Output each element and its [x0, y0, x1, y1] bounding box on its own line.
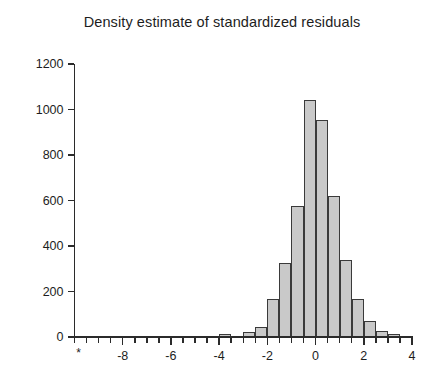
x-axis-minor-tick — [399, 338, 401, 343]
x-axis-minor-tick — [375, 338, 377, 343]
y-axis-tick — [68, 63, 74, 65]
y-axis-tick — [68, 154, 74, 156]
histogram-bar — [316, 120, 328, 337]
x-axis-minor-tick — [230, 338, 232, 343]
histogram-bar — [352, 299, 364, 337]
y-axis-tick-label: 0 — [57, 330, 64, 344]
y-axis-tick-label: 400 — [43, 239, 64, 253]
histogram-bar — [340, 260, 352, 337]
x-axis-major-tick — [267, 338, 269, 345]
y-axis-tick-label: 800 — [43, 148, 64, 162]
x-axis-minor-tick — [243, 338, 245, 343]
histogram-bar — [304, 100, 316, 337]
x-axis-minor-tick — [74, 338, 76, 343]
y-axis-tick-label: 1200 — [36, 57, 64, 71]
x-axis-tick-label: 2 — [360, 349, 367, 363]
x-axis-origin-marker: * — [76, 346, 81, 360]
x-axis-minor-tick — [387, 338, 389, 343]
x-axis-major-tick — [122, 338, 124, 345]
x-axis-major-tick — [411, 338, 413, 345]
x-axis-minor-tick — [351, 338, 353, 343]
x-axis-minor-tick — [339, 338, 341, 343]
x-axis-minor-tick — [110, 338, 112, 343]
x-axis-minor-tick — [146, 338, 148, 343]
x-axis-minor-tick — [255, 338, 257, 343]
x-axis-minor-tick — [194, 338, 196, 343]
y-axis-tick-label: 600 — [43, 194, 64, 208]
x-axis-minor-tick — [303, 338, 305, 343]
y-axis-tick-label: 200 — [43, 285, 64, 299]
histogram-bar — [364, 321, 376, 337]
x-axis-major-tick — [170, 338, 172, 345]
x-axis-major-tick — [363, 338, 365, 345]
x-axis-major-tick — [218, 338, 220, 345]
x-axis-tick-label: -2 — [262, 349, 273, 363]
x-axis-tick-label: -6 — [165, 349, 176, 363]
y-axis-tick — [68, 109, 74, 111]
x-axis-tick-label: -8 — [117, 349, 128, 363]
x-axis-tick-label: 4 — [409, 349, 416, 363]
histogram-bar — [267, 299, 279, 337]
histogram-bar — [291, 206, 303, 337]
histogram-bar — [328, 196, 340, 337]
x-axis-major-tick — [315, 338, 317, 345]
y-axis-tick — [68, 200, 74, 202]
x-axis-tick-label: 0 — [312, 349, 319, 363]
histogram-plot: 020040060080010001200-8-6-4-2024* — [0, 0, 444, 386]
x-axis-minor-tick — [206, 338, 208, 343]
x-axis-minor-tick — [279, 338, 281, 343]
y-axis-tick — [68, 245, 74, 247]
x-axis-tick-label: -4 — [214, 349, 225, 363]
x-axis-minor-tick — [158, 338, 160, 343]
chart-page: Density estimate of standardized residua… — [0, 0, 444, 386]
x-axis-minor-tick — [98, 338, 100, 343]
x-axis-minor-tick — [182, 338, 184, 343]
x-axis-minor-tick — [134, 338, 136, 343]
x-axis-minor-tick — [291, 338, 293, 343]
x-axis-minor-tick — [327, 338, 329, 343]
histogram-bar — [279, 263, 291, 337]
x-axis-minor-tick — [86, 338, 88, 343]
y-axis-tick — [68, 291, 74, 293]
y-axis-tick-label: 1000 — [36, 103, 64, 117]
